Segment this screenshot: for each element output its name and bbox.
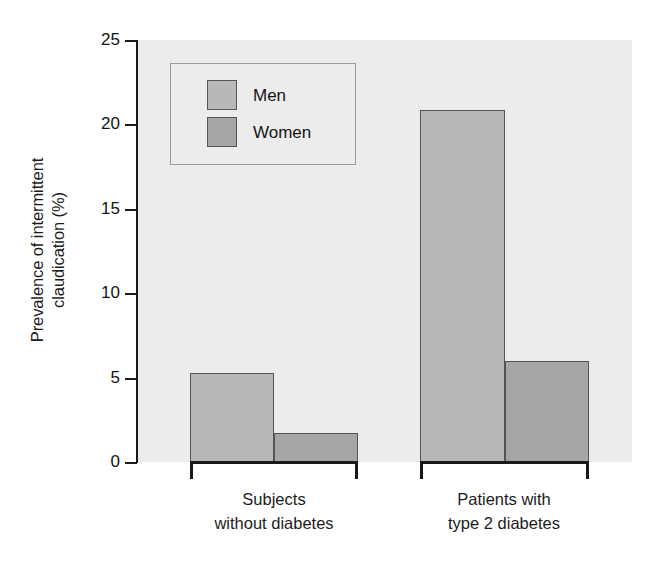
x-tick-label-group-2-line-1: Patients with xyxy=(404,487,604,511)
y-tick-mark xyxy=(125,378,137,380)
x-axis-baseline-group-2 xyxy=(420,461,589,464)
y-axis-label-line-1: Prevalence of intermittent xyxy=(27,158,48,343)
bar-men-patients-type-2-diabetes[interactable] xyxy=(420,110,505,462)
y-tick-label: 15 xyxy=(72,200,120,217)
x-tick-label-group-2: Patients with type 2 diabetes xyxy=(404,487,604,535)
bar-men-subjects-without-diabetes[interactable] xyxy=(190,373,274,462)
y-axis-label-line-2: claudication (%) xyxy=(48,158,69,343)
x-axis-baseline-group-1 xyxy=(190,461,358,464)
x-tick-label-group-1: Subjects without diabetes xyxy=(174,487,374,535)
y-tick-label: 10 xyxy=(72,284,120,301)
y-axis-spine xyxy=(136,40,138,463)
x-tick-label-group-2-line-2: type 2 diabetes xyxy=(404,511,604,535)
legend-label-men: Men xyxy=(253,87,286,104)
y-tick-mark xyxy=(125,40,137,42)
y-tick-mark xyxy=(125,462,137,464)
x-axis-cap-group-1-left xyxy=(190,461,193,479)
bar-women-patients-type-2-diabetes[interactable] xyxy=(505,361,589,462)
x-axis-cap-group-2-left xyxy=(420,461,423,479)
legend-item-men[interactable]: Men xyxy=(207,80,286,110)
x-tick-label-group-1-line-2: without diabetes xyxy=(174,511,374,535)
y-tick-label: 0 xyxy=(72,453,120,470)
chart-legend: Men Women xyxy=(170,63,356,165)
bar-chart-figure: Prevalence of intermittent claudication … xyxy=(0,0,664,567)
y-tick-mark xyxy=(125,124,137,126)
legend-label-women: Women xyxy=(253,124,311,141)
bar-women-subjects-without-diabetes[interactable] xyxy=(274,433,358,462)
y-tick-label: 20 xyxy=(72,115,120,132)
legend-item-women[interactable]: Women xyxy=(207,117,311,147)
x-tick-label-group-1-line-1: Subjects xyxy=(174,487,374,511)
y-tick-mark xyxy=(125,293,137,295)
y-tick-mark xyxy=(125,209,137,211)
x-axis-cap-group-2-right xyxy=(586,461,589,479)
y-tick-label: 25 xyxy=(72,31,120,48)
legend-swatch-women-icon xyxy=(207,117,237,147)
x-axis-cap-group-1-right xyxy=(355,461,358,479)
y-tick-label: 5 xyxy=(72,369,120,386)
legend-swatch-men-icon xyxy=(207,80,237,110)
y-axis-label: Prevalence of intermittent claudication … xyxy=(0,0,96,500)
